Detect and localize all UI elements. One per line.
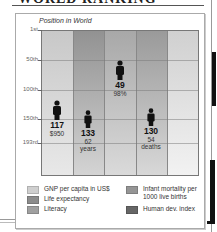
legend-label: Human dev. index bbox=[143, 205, 195, 213]
rank-marker-infant-mortality: 130 54 deaths bbox=[135, 108, 167, 150]
y-tick-mark bbox=[38, 143, 42, 144]
person-icon bbox=[52, 100, 62, 120]
metric-value: $950 bbox=[41, 130, 73, 137]
metric-value: 98% bbox=[104, 90, 136, 97]
y-tick-mark bbox=[38, 60, 42, 61]
legend-item-gnp: GNP per capita in US$ bbox=[27, 185, 110, 194]
column-infant-mortality bbox=[137, 31, 168, 175]
rank-value: 133 bbox=[72, 129, 104, 138]
column-literacy bbox=[105, 31, 137, 175]
legend-swatch bbox=[27, 196, 39, 204]
person-icon bbox=[115, 60, 125, 80]
legend-label: Life expectancy bbox=[44, 195, 89, 203]
rank-value: 49 bbox=[104, 81, 136, 90]
legend-swatch bbox=[126, 186, 138, 194]
metric-value: 62 bbox=[72, 138, 104, 145]
y-tick-label: 193rd bbox=[16, 139, 38, 145]
y-tick-label: 150th bbox=[16, 115, 38, 121]
person-icon bbox=[146, 108, 156, 126]
page-edge-bar bbox=[212, 52, 216, 106]
metric-value: 54 bbox=[135, 136, 167, 143]
legend-label: Literacy bbox=[44, 205, 67, 213]
rank-value: 130 bbox=[135, 127, 167, 136]
y-tick-label: 100th bbox=[16, 86, 38, 92]
y-tick-label: 1st bbox=[16, 26, 38, 32]
y-tick-label: 50th bbox=[16, 56, 38, 62]
legend-swatch bbox=[27, 186, 39, 194]
legend-swatch bbox=[27, 206, 39, 214]
metric-unit: years bbox=[72, 145, 104, 152]
page-rule bbox=[0, 222, 15, 223]
chart-title: Position in World bbox=[39, 17, 92, 24]
y-tick-mark bbox=[38, 90, 42, 91]
legend-item-literacy: Literacy bbox=[27, 205, 67, 214]
page-edge-foot bbox=[207, 221, 215, 224]
page-rule bbox=[0, 219, 15, 220]
legend-label: GNP per capita in US$ bbox=[44, 185, 110, 193]
rank-marker-gnp: 117 $950 bbox=[41, 100, 73, 137]
metric-unit: deaths bbox=[135, 143, 167, 150]
person-icon bbox=[83, 110, 93, 128]
legend-item-infant-mortality: Infant mortality per 1000 live births bbox=[126, 185, 200, 201]
y-tick-mark bbox=[38, 30, 42, 31]
rank-value: 117 bbox=[41, 121, 73, 130]
rank-marker-literacy: 49 98% bbox=[104, 60, 136, 97]
legend-item-human-dev-index: Human dev. index bbox=[126, 205, 195, 214]
title-divider bbox=[12, 5, 204, 6]
rank-marker-life-expectancy: 133 62 years bbox=[72, 110, 104, 152]
column-life-expectancy bbox=[74, 31, 105, 175]
legend-label: Infant mortality per 1000 live births bbox=[143, 185, 200, 201]
column-human-dev-index bbox=[168, 31, 198, 175]
legend-item-life-expectancy: Life expectancy bbox=[27, 195, 89, 204]
legend-swatch bbox=[126, 206, 138, 214]
gridline bbox=[41, 143, 199, 144]
page-edge-bar bbox=[210, 160, 215, 224]
